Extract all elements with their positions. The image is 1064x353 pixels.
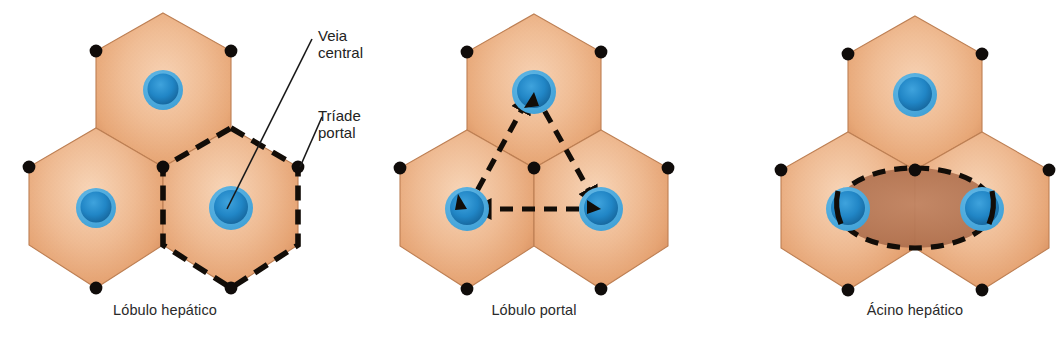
annotation-triade-portal: Tríade portal bbox=[318, 107, 361, 141]
central-vein-top bbox=[893, 73, 937, 117]
annotation-veia-central-line1: Veia bbox=[318, 27, 363, 44]
central-vein-lower-left bbox=[76, 188, 116, 228]
figure-root: Veia central Tríade portal Lóbulo hepáti… bbox=[0, 0, 1064, 353]
panel-acino-hepatico bbox=[765, 0, 1064, 300]
annotation-triade-portal-line2: portal bbox=[318, 124, 361, 141]
central-vein-lower-right bbox=[960, 187, 1004, 231]
panel-lobulo-hepatico bbox=[0, 0, 340, 300]
annotation-veia-central: Veia central bbox=[318, 27, 363, 61]
annotation-veia-central-line2: central bbox=[318, 44, 363, 61]
caption-lobulo-portal: Lóbulo portal bbox=[384, 302, 684, 318]
caption-acino-hepatico: Ácino hepático bbox=[765, 302, 1064, 318]
annotation-triade-portal-line1: Tríade bbox=[318, 107, 361, 124]
caption-lobulo-hepatico: Lóbulo hepático bbox=[0, 302, 330, 318]
central-vein-lower-right bbox=[209, 186, 253, 230]
central-vein-top bbox=[143, 70, 183, 110]
central-vein-lower-left bbox=[826, 187, 870, 231]
panel-lobulo-portal bbox=[384, 0, 684, 300]
